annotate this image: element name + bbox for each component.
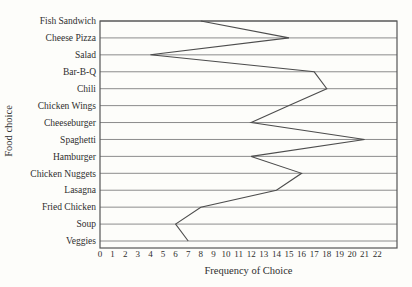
x-tick-label: 10 (222, 249, 232, 259)
x-tick-label: 1 (110, 249, 115, 259)
food-choice-line-chart: Fish SandwichCheese PizzaSaladBar-B-QChi… (0, 0, 412, 287)
x-tick-label: 3 (136, 249, 141, 259)
y-axis-title: Food choice (3, 105, 14, 157)
x-tick-label: 13 (259, 249, 269, 259)
category-label: Hamburger (53, 152, 97, 162)
category-label: Lasagna (64, 185, 96, 195)
category-label: Soup (76, 219, 96, 229)
x-tick-label: 5 (161, 249, 166, 259)
x-tick-label: 8 (199, 249, 204, 259)
x-tick-label: 0 (98, 249, 103, 259)
category-label: Bar-B-Q (63, 67, 96, 77)
x-tick-label: 6 (173, 249, 178, 259)
x-tick-label: 22 (373, 249, 382, 259)
category-label: Cheeseburger (44, 118, 97, 128)
data-line (150, 21, 364, 241)
x-tick-label: 20 (348, 249, 358, 259)
x-axis-title: Frequency of Choice (204, 265, 292, 276)
category-label: Veggies (66, 236, 96, 246)
x-tick-label: 18 (322, 249, 332, 259)
category-label: Salad (75, 50, 96, 60)
category-label: Cheese Pizza (46, 33, 97, 43)
category-label: Fried Chicken (42, 202, 96, 212)
line-chart-canvas: Fish SandwichCheese PizzaSaladBar-B-QChi… (0, 0, 412, 287)
x-tick-label: 21 (360, 249, 369, 259)
x-tick-label: 15 (285, 249, 295, 259)
x-tick-label: 11 (234, 249, 243, 259)
category-label: Chicken Wings (38, 101, 97, 111)
x-tick-label: 19 (335, 249, 345, 259)
x-tick-label: 14 (272, 249, 282, 259)
x-tick-label: 16 (297, 249, 307, 259)
x-tick-label: 9 (211, 249, 216, 259)
category-label: Chili (77, 84, 96, 94)
x-tick-label: 17 (310, 249, 320, 259)
category-label: Chicken Nuggets (30, 169, 96, 179)
x-tick-label: 7 (186, 249, 191, 259)
x-tick-label: 12 (247, 249, 256, 259)
x-tick-label: 2 (123, 249, 128, 259)
category-label: Spaghetti (60, 135, 96, 145)
x-tick-label: 4 (148, 249, 153, 259)
category-label: Fish Sandwich (40, 16, 96, 26)
